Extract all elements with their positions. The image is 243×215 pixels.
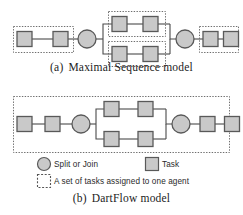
split-node[interactable] xyxy=(78,30,96,48)
split-node[interactable] xyxy=(72,115,90,133)
task-node[interactable] xyxy=(138,102,153,117)
task-node[interactable] xyxy=(17,32,32,47)
panel-b-gateways xyxy=(72,115,190,133)
task-node[interactable] xyxy=(143,17,158,32)
caption-b-tag: (b) xyxy=(73,192,87,204)
panel-b-tasks xyxy=(17,102,240,147)
task-node[interactable] xyxy=(200,117,215,132)
join-node[interactable] xyxy=(176,30,194,48)
task-node[interactable] xyxy=(104,102,119,117)
panel-b-diagram xyxy=(14,97,240,153)
panel-a-gateways xyxy=(78,30,194,48)
task-node[interactable] xyxy=(17,117,32,132)
task-node[interactable] xyxy=(104,132,119,147)
legend-label-task: Task xyxy=(162,160,179,169)
legend-square-icon xyxy=(146,158,159,171)
legend-label-split-or-join: Split or Join xyxy=(54,160,98,169)
caption-a-tag: (a) xyxy=(50,61,63,73)
caption-a-text: Maximal Sequence model xyxy=(68,61,192,73)
legend-label-agent-set: A set of tasks assigned to one agent xyxy=(54,177,189,186)
panel-b-edges xyxy=(32,109,225,139)
caption-b-text: DartFlow model xyxy=(92,192,171,204)
task-node[interactable] xyxy=(112,47,127,62)
task-node[interactable] xyxy=(112,17,127,32)
legend-circle-icon xyxy=(38,158,51,171)
caption-panel-a: (a)Maximal Sequence model xyxy=(0,61,243,73)
task-node[interactable] xyxy=(138,132,153,147)
task-node[interactable] xyxy=(225,117,240,132)
panel-a-diagram xyxy=(14,12,239,67)
figure-container: Split or Join Task A set of tasks assign… xyxy=(0,0,243,215)
task-node[interactable] xyxy=(53,32,68,47)
task-node[interactable] xyxy=(143,47,158,62)
task-node[interactable] xyxy=(45,117,60,132)
join-node[interactable] xyxy=(172,115,190,133)
legend-dotted-box-icon xyxy=(38,175,51,188)
task-node[interactable] xyxy=(203,32,218,47)
caption-panel-b: (b)DartFlow model xyxy=(0,192,243,204)
task-node[interactable] xyxy=(224,32,239,47)
